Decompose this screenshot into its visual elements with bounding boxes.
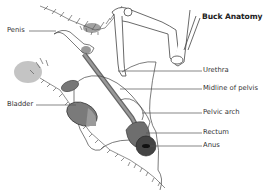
rectum-organ [126,122,156,156]
label-anus: Anus [203,142,220,149]
label-bladder: Bladder [7,101,33,108]
diagram-title: Buck Anatomy [202,12,262,21]
buck-anatomy-illustration [0,0,270,192]
label-rectum: Rectum [203,129,229,136]
hind-leg-bones [112,8,200,77]
dark-fur-patch [83,23,101,33]
gland [60,78,80,94]
label-penis: Penis [7,27,25,34]
label-pelvic-arch: Pelvic arch [203,109,240,116]
label-urethra: Urethra [203,67,229,74]
label-midline-of-pelvis: Midline of pelvis [203,85,258,92]
scrotum-fur [14,61,42,83]
